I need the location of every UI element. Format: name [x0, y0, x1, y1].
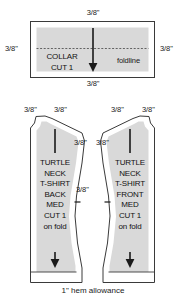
back-seam-shoulder-inner-label: 3/8": [54, 106, 67, 114]
collar-seam-right-label: 3/8": [160, 45, 173, 53]
collar-piece-label: COLLAR CUT 1: [46, 52, 77, 73]
back-piece-label: TURTLE NECK T-SHIRT BACK MED CUT 1 on fo…: [40, 158, 70, 232]
back-label-line2: NECK: [40, 169, 70, 180]
front-label-line5: MED: [115, 200, 145, 211]
back-label-line1: TURTLE: [40, 158, 70, 169]
back-seam-shoulder-outer-label: 3/8": [24, 106, 37, 114]
back-label-line3: T-SHIRT: [40, 179, 70, 190]
hem-allowance-label: 1" hem allowance: [62, 286, 125, 295]
front-label-line1: TURTLE: [115, 158, 145, 169]
front-label-line6: CUT 1: [115, 211, 145, 222]
collar-foldline-label: foldline: [117, 57, 140, 65]
front-seam-shoulder-inner-label: 3/8": [111, 106, 124, 114]
pattern-layout-diagram: 3/8" 3/8" 3/8" 3/8" COLLAR CUT 1 foldlin…: [0, 0, 189, 305]
collar-label-line1: COLLAR: [46, 52, 77, 63]
front-label-line4: FRONT: [115, 190, 145, 201]
back-label-line6: CUT 1: [40, 211, 70, 222]
front-seam-shoulder-outer-label: 3/8": [142, 106, 155, 114]
front-piece-label: TURTLE NECK T-SHIRT FRONT MED CUT 1 on f…: [115, 158, 145, 232]
back-seam-side-upper-label: 3/8": [74, 139, 87, 147]
back-seam-side-lower-label: 3/8": [76, 186, 89, 194]
collar-seam-left-label: 3/8": [5, 45, 18, 53]
collar-seam-bottom-label: 3/8": [87, 80, 100, 88]
collar-seam-top-label: 3/8": [87, 9, 100, 17]
front-seam-side-upper-label: 3/8": [96, 139, 109, 147]
back-label-line4: BACK: [40, 190, 70, 201]
front-label-line2: NECK: [115, 169, 145, 180]
back-label-line5: MED: [40, 200, 70, 211]
collar-label-line2: CUT 1: [46, 63, 77, 74]
back-label-line7: on fold: [40, 222, 70, 233]
front-label-line7: on fold: [115, 222, 145, 233]
front-label-line3: T-SHIRT: [115, 179, 145, 190]
